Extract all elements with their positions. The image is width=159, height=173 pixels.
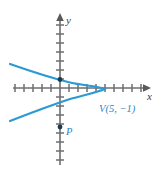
point-p-dot	[58, 125, 63, 130]
y-axis-arrow-icon	[56, 13, 64, 21]
y-axis-group	[56, 13, 64, 165]
y-intercept-upper-dot	[58, 77, 63, 82]
point-p-label: P	[65, 126, 73, 137]
x-axis-label: x	[146, 90, 152, 102]
coordinate-plot-svg: x y V(5, −1) P	[0, 0, 159, 173]
y-axis-label: y	[65, 14, 71, 26]
vertex-label: V(5, −1)	[99, 103, 136, 115]
parabola-curve	[10, 64, 105, 121]
parabola-figure: x y V(5, −1) P	[0, 0, 159, 173]
